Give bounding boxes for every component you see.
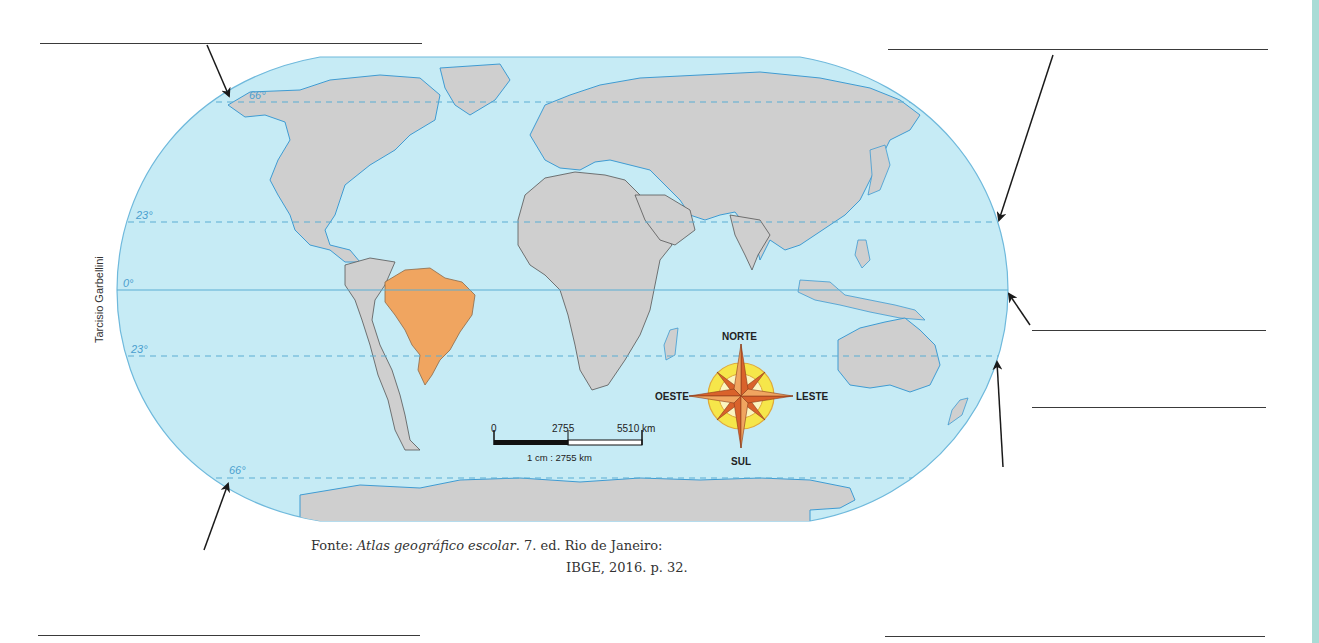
arrow-bottom-left — [204, 484, 228, 550]
antarctica — [300, 478, 855, 530]
answer-blank-right-middle[interactable] — [1032, 330, 1266, 331]
scale-tick-2755: 2755 — [552, 423, 575, 434]
answer-blank-bottom-left[interactable] — [38, 635, 420, 636]
answer-blank-top-right[interactable] — [888, 49, 1268, 50]
lat-label-66n: 66° — [249, 89, 266, 101]
arrow-right-middle — [1009, 294, 1030, 325]
lat-label-0: 0° — [123, 277, 134, 289]
source-prefix: Fonte: — [311, 538, 357, 553]
source-title: Atlas geográfico escolar — [357, 538, 516, 553]
scale-tick-0: 0 — [491, 423, 497, 434]
compass-south-label: SUL — [731, 456, 751, 467]
arrow-top-left — [207, 45, 229, 96]
lat-label-23s: 23° — [130, 343, 148, 355]
arrow-top-right — [999, 55, 1053, 220]
lat-label-66s: 66° — [229, 464, 246, 476]
lat-label-23n: 23° — [135, 209, 153, 221]
answer-blank-top-left[interactable] — [40, 43, 422, 44]
compass-west-label: OESTE — [655, 391, 689, 402]
source-line-2: IBGE, 2016. p. 32. — [566, 560, 688, 575]
scale-ratio: 1 cm : 2755 km — [527, 452, 592, 463]
compass-east-label: LESTE — [796, 391, 829, 402]
source-rest: . 7. ed. Rio de Janeiro: — [516, 538, 663, 553]
answer-blank-right-lower[interactable] — [1032, 407, 1266, 408]
answer-blank-bottom-right[interactable] — [885, 636, 1265, 637]
scale-tick-5510: 5510 km — [617, 423, 655, 434]
compass-north-label: NORTE — [722, 331, 757, 342]
arrow-right-lower — [997, 362, 1003, 467]
source-line-1: Fonte: Atlas geográfico escolar. 7. ed. … — [311, 538, 662, 553]
